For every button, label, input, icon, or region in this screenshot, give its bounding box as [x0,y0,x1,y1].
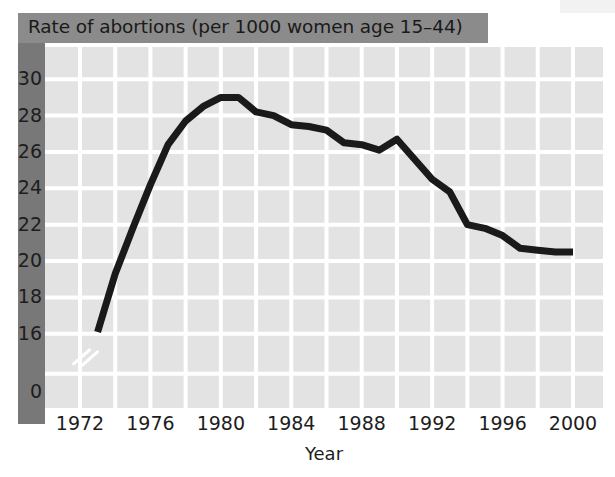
y-axis-tick-20: 20 [8,251,42,270]
y-axis-tick-24: 24 [8,178,42,197]
x-axis-tick-1976: 1976 [126,414,174,433]
x-axis-tick-labels: 19721976198019841988199219962000 [45,414,603,440]
x-axis-title: Year [45,443,603,464]
x-axis-tick-1984: 1984 [267,414,315,433]
y-axis-tick-30: 30 [8,69,42,88]
y-axis-tick-22: 22 [8,215,42,234]
chart-figure: Rate of abortions (per 1000 women age 15… [0,0,615,477]
plot-area [45,47,603,408]
y-axis-tick-28: 28 [8,106,42,125]
scan-artifact [560,0,615,13]
x-axis-tick-1980: 1980 [197,414,245,433]
x-axis-tick-1972: 1972 [56,414,104,433]
y-axis-tick-16: 16 [8,324,42,343]
y-axis-tick-18: 18 [8,287,42,306]
page-title: Rate of abortions (per 1000 women age 15… [28,16,463,37]
y-axis-tick-labels: 16182022242628300 [0,47,42,422]
x-axis-tick-1996: 1996 [478,414,526,433]
x-axis-tick-1988: 1988 [338,414,386,433]
chart-title-banner: Rate of abortions (per 1000 women age 15… [18,13,488,43]
x-axis-tick-1992: 1992 [408,414,456,433]
x-axis-tick-2000: 2000 [549,414,597,433]
data-line-series [45,47,603,408]
y-axis-break-zero-label: 0 [8,382,42,401]
y-axis-tick-26: 26 [8,142,42,161]
